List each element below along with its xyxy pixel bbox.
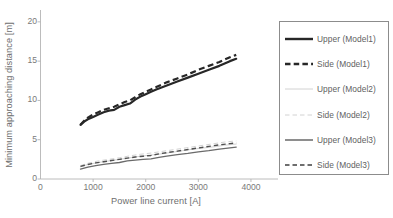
legend-item[interactable]: Side (Model1) xyxy=(280,51,388,76)
chart-legend: Upper (Model1)Side (Model1)Upper (Model2… xyxy=(279,21,389,175)
legend-line-swatch xyxy=(284,58,314,70)
legend-line-swatch xyxy=(284,33,314,45)
legend-item[interactable]: Upper (Model1) xyxy=(280,26,388,51)
legend-item[interactable]: Side (Model2) xyxy=(280,102,388,127)
legend-line-swatch xyxy=(284,134,314,146)
series-line-0 xyxy=(80,59,236,125)
legend-item[interactable]: Upper (Model2) xyxy=(280,77,388,102)
legend-item[interactable]: Side (Model3) xyxy=(280,152,388,177)
series-line-4 xyxy=(80,147,236,169)
legend-item-label: Upper (Model2) xyxy=(314,84,376,94)
legend-item-label: Side (Model3) xyxy=(314,160,370,170)
legend-item-label: Side (Model2) xyxy=(314,110,370,120)
legend-item[interactable]: Upper (Model3) xyxy=(280,127,388,152)
legend-line-swatch xyxy=(284,83,314,95)
chart-figure: Minimum approaching distance [m] 0510152… xyxy=(0,0,393,218)
legend-line-swatch xyxy=(284,159,314,171)
legend-item-label: Upper (Model1) xyxy=(314,34,376,44)
series-line-1 xyxy=(80,55,236,125)
series-line-5 xyxy=(80,143,236,167)
legend-line-swatch xyxy=(284,109,314,121)
series-line-2 xyxy=(80,144,236,167)
legend-item-label: Side (Model1) xyxy=(314,59,370,69)
legend-item-label: Upper (Model3) xyxy=(314,135,376,145)
